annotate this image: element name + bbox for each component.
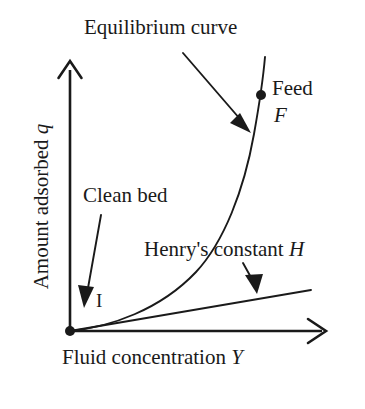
y-axis-symbol: q (29, 124, 53, 135)
feed-dot-marker (256, 90, 266, 100)
x-axis-label: Fluid concentration Y (62, 347, 243, 368)
y-axis-label-text: Amount adsorbed (29, 134, 53, 289)
clean-bed-point-label: I (96, 291, 102, 310)
equilibrium-curve-label: Equilibrium curve (84, 17, 237, 38)
clean-bed-label: Clean bed (83, 185, 168, 206)
x-axis-label-text: Fluid concentration (62, 345, 231, 369)
feed-label: Feed (272, 78, 313, 99)
henrys-constant-label-text: Henry's constant (144, 237, 289, 261)
feed-symbol-label: F (274, 105, 287, 126)
x-axis-symbol: Y (231, 345, 243, 369)
y-axis-label: Amount adsorbed q (31, 92, 52, 322)
henrys-constant-symbol: H (289, 237, 304, 261)
henrys-constant-label: Henry's constant H (144, 239, 304, 260)
origin-dot-marker (65, 326, 75, 336)
